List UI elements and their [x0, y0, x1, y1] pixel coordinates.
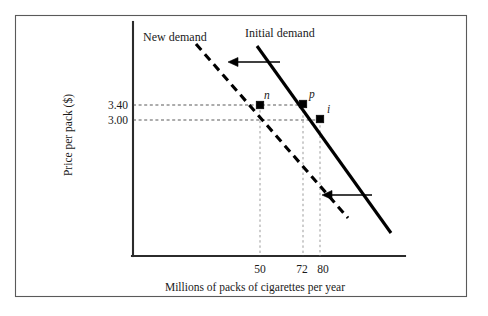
data-point-i[interactable]	[316, 115, 324, 123]
data-point-label-i: i	[327, 103, 330, 115]
data-point-n[interactable]	[256, 101, 264, 109]
y-tick-label-300: 3.00	[108, 114, 128, 126]
data-point-label-p: p	[308, 88, 315, 101]
x-tick-label-50: 50	[254, 263, 266, 275]
x-tick-label-80: 80	[317, 263, 329, 275]
y-axis-title: Price per pack ($)	[62, 94, 75, 176]
y-tick-label-340: 3.40	[108, 99, 128, 111]
demand-shift-chart: n p i New demand Initial demand 3.40 3.0…	[0, 0, 488, 316]
figure-container: n p i New demand Initial demand 3.40 3.0…	[0, 0, 488, 316]
x-axis-title: Millions of packs of cigarettes per year	[165, 281, 345, 294]
initial-demand-curve[interactable]	[257, 46, 391, 233]
data-point-label-n: n	[264, 89, 270, 101]
x-tick-label-72: 72	[296, 263, 308, 275]
initial-demand-label: Initial demand	[245, 26, 315, 40]
new-demand-curve[interactable]	[196, 44, 348, 218]
figure-border	[16, 16, 467, 297]
new-demand-label: New demand	[143, 30, 207, 44]
data-point-p[interactable]	[299, 100, 307, 108]
